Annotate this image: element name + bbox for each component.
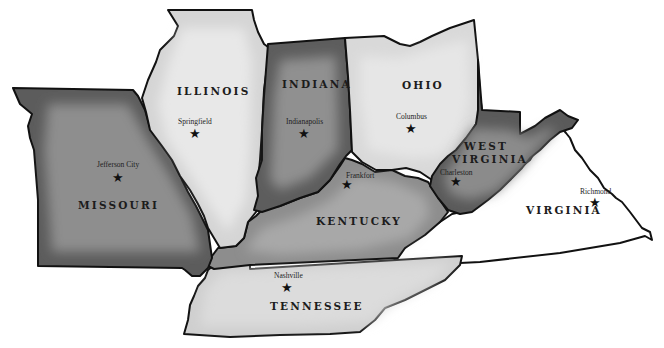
label-west-virginia-1: WEST	[463, 140, 508, 152]
map-svg: ILLINOIS INDIANA OHIO MISSOURI KENTUCKY …	[0, 0, 664, 348]
star-icon: ★	[589, 195, 601, 210]
capital-jefferson-city: Jefferson City	[97, 160, 139, 169]
star-icon: ★	[405, 121, 417, 136]
label-west-virginia-2: VIRGINIA	[451, 153, 528, 165]
states-map: ILLINOIS INDIANA OHIO MISSOURI KENTUCKY …	[0, 0, 664, 348]
label-illinois: ILLINOIS	[177, 85, 250, 97]
label-ohio: OHIO	[402, 79, 444, 91]
star-icon: ★	[281, 280, 293, 295]
capital-nashville: Nashville	[274, 271, 303, 280]
capital-indianapolis: Indianapolis	[286, 117, 323, 126]
capital-columbus: Columbus	[396, 112, 427, 121]
star-icon: ★	[298, 126, 310, 141]
star-icon: ★	[189, 126, 201, 141]
capital-springfield: Springfield	[178, 117, 212, 126]
label-missouri: MISSOURI	[78, 199, 159, 211]
label-indiana: INDIANA	[282, 78, 352, 90]
star-icon: ★	[450, 174, 462, 189]
star-icon: ★	[341, 177, 353, 192]
label-kentucky: KENTUCKY	[316, 215, 402, 227]
star-icon: ★	[112, 170, 124, 185]
label-tennessee: TENNESSEE	[270, 300, 364, 312]
